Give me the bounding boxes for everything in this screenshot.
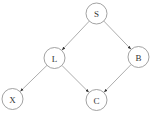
arrow-line	[62, 65, 89, 92]
arrow-line	[62, 21, 89, 50]
edge-s-to-b	[104, 21, 131, 49]
edges-group	[20, 21, 131, 92]
node-x: X	[2, 89, 23, 110]
edge-b-to-c	[104, 65, 131, 93]
arrow-line	[104, 21, 131, 49]
node-label: S	[94, 9, 99, 19]
nodes-group: SLBXC	[2, 3, 149, 111]
node-b: B	[128, 47, 149, 68]
node-label: X	[9, 95, 16, 105]
node-c: C	[86, 90, 107, 111]
node-label: B	[135, 53, 141, 63]
edge-s-to-l	[62, 21, 89, 50]
arrow-line	[20, 65, 47, 91]
node-l: L	[44, 48, 65, 69]
node-label: L	[52, 54, 58, 64]
edge-l-to-x	[20, 65, 47, 91]
node-s: S	[86, 3, 107, 24]
node-label: C	[93, 96, 99, 106]
arrow-line	[104, 65, 131, 93]
bayesian-network-diagram: SLBXC	[0, 0, 150, 114]
edge-l-to-c	[62, 65, 89, 92]
